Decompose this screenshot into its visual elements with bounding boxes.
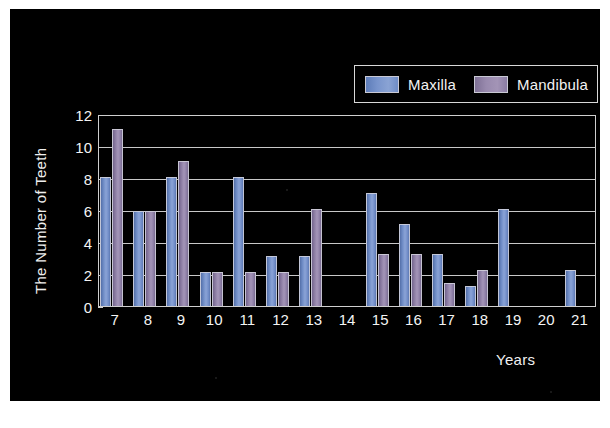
- bar-maxilla-11: [233, 177, 244, 307]
- bar-group: [430, 115, 463, 307]
- bar-maxilla-21: [565, 270, 576, 307]
- bar-maxilla-15: [366, 193, 377, 307]
- bar-group: [231, 115, 264, 307]
- bar-maxilla-18: [465, 286, 476, 307]
- x-tick-label: 16: [396, 311, 430, 328]
- bar-group: [463, 115, 496, 307]
- bar-mandibula-18: [477, 270, 488, 307]
- bar-group: [563, 115, 596, 307]
- x-tick-label: 15: [363, 311, 397, 328]
- x-tick-label: 8: [131, 311, 165, 328]
- bar-mandibula-7: [112, 129, 123, 307]
- bar-group: [364, 115, 397, 307]
- scan-speck: [215, 377, 217, 379]
- chart-panel: Maxilla Mandibula The Number of Teeth 02…: [10, 9, 600, 401]
- mandibula-swatch-icon: [474, 76, 508, 93]
- chart-legend: Maxilla Mandibula: [354, 65, 598, 103]
- y-tick-mark: [98, 307, 103, 308]
- bar-maxilla-10: [200, 272, 211, 307]
- x-axis-tick-labels: 789101112131415161718192021: [98, 311, 596, 335]
- y-tick-label: 10: [62, 139, 92, 156]
- bar-mandibula-9: [178, 161, 189, 307]
- x-tick-label: 19: [496, 311, 530, 328]
- bar-maxilla-19: [498, 209, 509, 307]
- x-tick-label: 13: [297, 311, 331, 328]
- bar-group: [397, 115, 430, 307]
- bar-group: [530, 115, 563, 307]
- scan-speck: [550, 391, 552, 393]
- figure-root: Maxilla Mandibula The Number of Teeth 02…: [0, 0, 610, 428]
- x-tick-label: 14: [330, 311, 364, 328]
- bar-series-container: [98, 115, 596, 307]
- bar-mandibula-11: [245, 272, 256, 307]
- x-tick-label: 21: [562, 311, 596, 328]
- legend-label-maxilla: Maxilla: [408, 76, 456, 93]
- x-axis-title: Years: [496, 351, 535, 368]
- bar-group: [131, 115, 164, 307]
- legend-entry-maxilla: Maxilla: [365, 66, 456, 102]
- plot-area: [98, 115, 596, 307]
- x-tick-label: 17: [430, 311, 464, 328]
- bar-mandibula-15: [378, 254, 389, 307]
- y-tick-label: 8: [62, 171, 92, 188]
- legend-label-mandibula: Mandibula: [517, 76, 588, 93]
- y-tick-label: 6: [62, 203, 92, 220]
- x-tick-label: 9: [164, 311, 198, 328]
- legend-entry-mandibula: Mandibula: [474, 66, 588, 102]
- maxilla-swatch-icon: [365, 76, 399, 93]
- y-tick-label: 2: [62, 267, 92, 284]
- bar-maxilla-12: [266, 256, 277, 307]
- bar-mandibula-12: [278, 272, 289, 307]
- x-tick-label: 12: [264, 311, 298, 328]
- x-tick-label: 10: [197, 311, 231, 328]
- bar-maxilla-16: [399, 224, 410, 307]
- bar-maxilla-17: [432, 254, 443, 307]
- x-tick-label: 11: [230, 311, 264, 328]
- bar-group: [198, 115, 231, 307]
- bar-maxilla-8: [133, 211, 144, 307]
- x-tick-label: 18: [463, 311, 497, 328]
- bar-mandibula-10: [212, 272, 223, 307]
- bar-mandibula-13: [311, 209, 322, 307]
- x-tick-label: 7: [98, 311, 132, 328]
- bar-group: [98, 115, 131, 307]
- bar-group: [330, 115, 363, 307]
- bar-mandibula-16: [411, 254, 422, 307]
- y-tick-label: 4: [62, 235, 92, 252]
- bar-group: [496, 115, 529, 307]
- scan-speck: [286, 189, 288, 191]
- bar-maxilla-13: [299, 256, 310, 307]
- y-axis-tick-labels: 024681012: [60, 115, 92, 307]
- bar-group: [264, 115, 297, 307]
- y-axis-title: The Number of Teeth: [28, 115, 52, 327]
- x-tick-label: 20: [529, 311, 563, 328]
- bar-maxilla-7: [100, 177, 111, 307]
- bar-group: [164, 115, 197, 307]
- y-tick-label: 0: [62, 299, 92, 316]
- bar-group: [297, 115, 330, 307]
- bar-maxilla-9: [166, 177, 177, 307]
- bar-mandibula-17: [444, 283, 455, 307]
- bar-mandibula-8: [145, 211, 156, 307]
- y-tick-label: 12: [62, 107, 92, 124]
